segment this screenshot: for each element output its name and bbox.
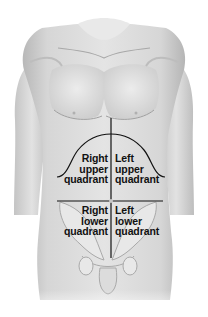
right-obturator (79, 257, 93, 275)
umbilicus (109, 199, 113, 203)
label-right-lower-quadrant: Right lower quadrant (56, 205, 108, 237)
left-pectoral (103, 64, 159, 119)
label-right-upper-quadrant: Right upper quadrant (56, 153, 108, 185)
right-pectoral (49, 64, 105, 119)
abdominal-quadrants-diagram: Right upper quadrant Left upper quadrant… (0, 0, 208, 317)
label-left-upper-quadrant: Left upper quadrant (115, 153, 171, 185)
left-obturator (123, 257, 137, 275)
label-left-lower-quadrant: Left lower quadrant (115, 205, 171, 237)
